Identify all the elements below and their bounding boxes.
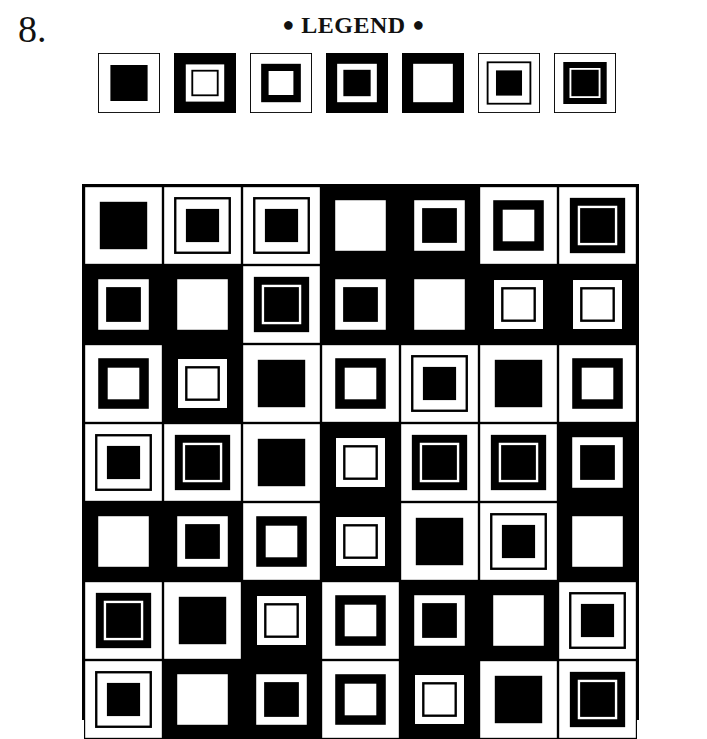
grid-cell-r4-c1: [84, 423, 163, 502]
grid-cell-r6-c1: [84, 581, 163, 660]
grid-cell-r5-c2: [163, 502, 242, 581]
grid-cell-r2-c5: [400, 265, 479, 344]
grid-cell-r1-c6: [479, 186, 558, 265]
grid-cell-r4-c3: [242, 423, 321, 502]
legend-tile-c: [250, 53, 312, 113]
grid-cell-r6-c6: [479, 581, 558, 660]
grid-cell-r4-c4: [321, 423, 400, 502]
grid-cell-r2-c4: [321, 265, 400, 344]
grid-cell-r7-c1: [84, 660, 163, 739]
legend-title-text: LEGEND: [301, 12, 405, 38]
grid-cell-r4-c5: [400, 423, 479, 502]
grid-cell-r1-c1: [84, 186, 163, 265]
grid-cell-r2-c1: [84, 265, 163, 344]
legend-row: [98, 53, 616, 113]
grid-cell-r3-c6: [479, 344, 558, 423]
legend-tile-e: [402, 53, 464, 113]
grid-cell-r1-c4: [321, 186, 400, 265]
grid-cell-r5-c7: [558, 502, 637, 581]
grid-cell-r3-c4: [321, 344, 400, 423]
grid-cell-r2-c2: [163, 265, 242, 344]
legend-title: ● LEGEND ●: [0, 12, 707, 39]
legend-tile-b: [174, 53, 236, 113]
grid-cell-r6-c2: [163, 581, 242, 660]
legend-tile-a: [98, 53, 160, 113]
grid-cell-r6-c3: [242, 581, 321, 660]
grid-cell-r6-c7: [558, 581, 637, 660]
grid-cell-r1-c5: [400, 186, 479, 265]
legend-tile-f: [478, 53, 540, 113]
grid-cell-r2-c7: [558, 265, 637, 344]
grid-cell-r3-c7: [558, 344, 637, 423]
grid-cell-r4-c2: [163, 423, 242, 502]
grid-cell-r4-c6: [479, 423, 558, 502]
grid-cell-r4-c7: [558, 423, 637, 502]
legend-tile-d: [326, 53, 388, 113]
grid-cell-r2-c3: [242, 265, 321, 344]
grid-cell-r6-c5: [400, 581, 479, 660]
grid-cell-r3-c2: [163, 344, 242, 423]
grid-cell-r2-c6: [479, 265, 558, 344]
grid-cell-r1-c2: [163, 186, 242, 265]
grid-cell-r3-c5: [400, 344, 479, 423]
grid-cell-r7-c5: [400, 660, 479, 739]
grid-cell-r5-c5: [400, 502, 479, 581]
grid-cell-r5-c6: [479, 502, 558, 581]
grid-cell-r7-c3: [242, 660, 321, 739]
grid-cell-r1-c3: [242, 186, 321, 265]
grid-cell-r6-c4: [321, 581, 400, 660]
grid-cell-r7-c7: [558, 660, 637, 739]
grid-cell-r3-c3: [242, 344, 321, 423]
grid-cell-r5-c1: [84, 502, 163, 581]
grid-cell-r5-c3: [242, 502, 321, 581]
grid-cell-r7-c6: [479, 660, 558, 739]
grid-cell-r5-c4: [321, 502, 400, 581]
grid-cell-r1-c7: [558, 186, 637, 265]
grid-cell-r7-c2: [163, 660, 242, 739]
grid-cell-r7-c4: [321, 660, 400, 739]
bullet-icon: ●: [282, 13, 295, 35]
tile-grid: [82, 184, 639, 720]
grid-cell-r3-c1: [84, 344, 163, 423]
legend-tile-g: [554, 53, 616, 113]
bullet-icon: ●: [412, 13, 425, 35]
